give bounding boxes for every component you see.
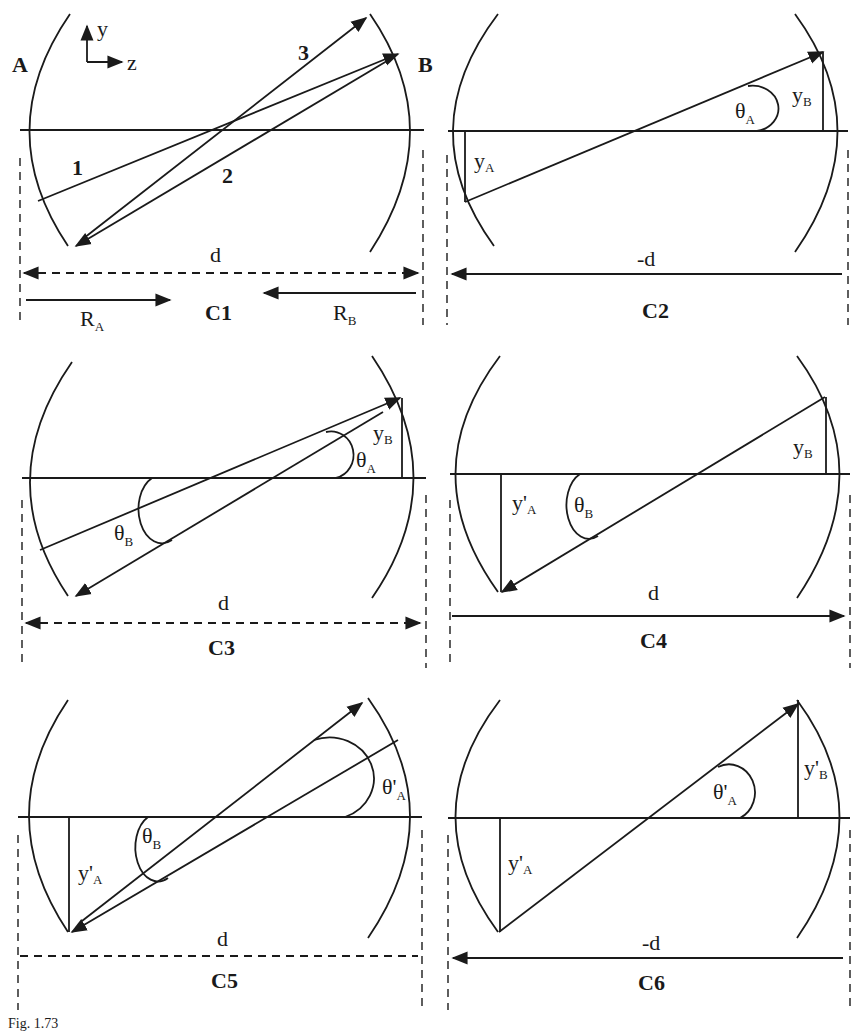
mirror-b-label: B [418,52,433,77]
height-label-yb-prime: y'B [804,755,828,782]
height-label-ya: yA [474,148,495,175]
height-label-ya-prime: y'A [78,860,103,887]
mirror-a [453,14,498,246]
radius-a-label: RA [80,306,105,334]
angle-label-theta-a: θA [356,447,377,476]
angle-label-theta-b: θB [574,492,594,521]
height-label-yb: yB [373,420,393,447]
distance-label: d [648,580,659,605]
panel-title-c2: C2 [642,298,669,323]
panel-title-c6: C6 [638,970,665,995]
mirror-b [372,356,414,598]
ray-label-2: 2 [222,163,233,188]
distance-label: -d [642,930,660,955]
angle-label-theta-a-prime: θ'A [713,779,738,808]
height-label-ya-prime: y'A [512,490,537,517]
axis-y-label: y [97,16,108,41]
angle-label-theta-a-prime: θ'A [382,774,407,803]
angle-arc-theta-b [138,478,172,543]
mirror-a [29,700,68,932]
panel-c5 [18,698,422,1010]
panel-title-c4: C4 [640,628,667,653]
ray-1 [38,54,398,201]
ray-2 [76,58,392,246]
mirror-b [795,14,838,252]
distance-label: d [210,242,221,267]
mirror-a-label: A [12,52,28,77]
ray-label-1: 1 [72,155,83,180]
mirror-b [797,356,840,598]
panel-c3 [22,356,426,668]
panel-c2 [447,14,848,325]
height-label-yb: yB [793,434,813,461]
ray-out [40,398,400,550]
panel-title-c3: C3 [208,635,235,660]
distance-label: d [218,590,229,615]
mirror-a [455,700,500,932]
panel-title-c5: C5 [211,968,238,993]
panel-c4 [450,356,850,668]
mirror-a [30,362,72,596]
angle-label-theta-b: θB [114,520,134,549]
ray [502,397,825,592]
ray-back [72,740,398,932]
mirror-b [370,14,410,252]
ray-out [82,703,362,921]
figure-caption: Fig. 1.73 [8,1016,58,1032]
angle-arc-theta-a-prime [314,737,374,817]
mirror-b [368,698,410,938]
ray-back [76,412,383,596]
ray-label-3: 3 [298,40,309,65]
radius-b-label: RB [333,300,357,328]
distance-label: -d [637,246,655,271]
axis-z-label: z [127,50,137,75]
height-label-yb: yB [792,82,812,109]
mirror-b [797,700,840,938]
height-label-ya-prime: y'A [508,850,533,877]
distance-label: d [217,926,228,951]
angle-label-theta-a: θA [735,98,756,127]
angle-label-theta-b: θB [142,823,162,852]
panel-title-c1: C1 [205,300,232,325]
